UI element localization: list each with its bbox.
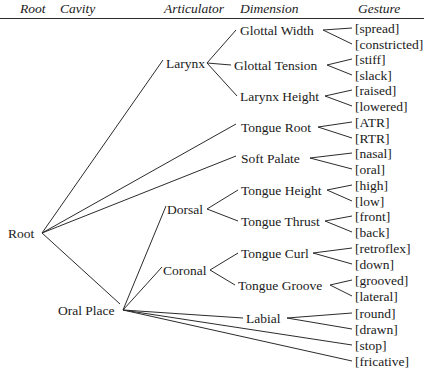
fork-tongue_thrust-to-back [325, 221, 352, 232]
gesture-stiff: [stiff] [355, 52, 386, 67]
dimension-tongue-height: Tongue Height [241, 183, 321, 198]
fork-tongue_height-to-low [327, 190, 352, 201]
edge-root-to-tongue_root [42, 124, 236, 233]
gesture-slack: [slack] [355, 68, 392, 83]
edge-coronal-to-tongue_curl [210, 253, 238, 270]
fork-glottal_width-to-constricted [323, 30, 352, 44]
edge-oral_place-to-coronal [123, 267, 162, 310]
fork-glottal_tension-to-stiff [327, 59, 352, 65]
edge-root-to-larynx [42, 60, 163, 233]
fork-tongue_groove-to-grooved [330, 280, 352, 285]
gesture-grooved: [grooved] [355, 273, 408, 288]
fork-soft_palate-to-oral [310, 158, 352, 169]
gesture-fricative: [fricative] [355, 354, 409, 369]
dimension-tongue-thrust: Tongue Thrust [241, 214, 320, 229]
gesture-constricted: [constricted] [355, 37, 423, 52]
fork-tongue_root-to-RTR [318, 127, 352, 138]
fork-tongue_thrust-to-front [325, 216, 352, 221]
fork-tongue_root-to-ATR [318, 122, 352, 127]
feature-geometry-diagram: RootCavityArticulatorDimensionGesture Ro… [0, 0, 424, 372]
node-root: Root [8, 226, 34, 241]
edge-root-to-oral_place [42, 233, 120, 304]
fork-soft_palate-to-nasal [310, 153, 352, 158]
gesture-retroflex: [retroflex] [355, 241, 410, 256]
gesture-ATR: [ATR] [355, 115, 390, 130]
dimension-tongue-groove: Tongue Groove [238, 278, 322, 293]
gesture-back: [back] [355, 225, 389, 240]
edge-oral_place-to-dorsal [123, 206, 166, 310]
dimension-glottal-tension: Glottal Tension [234, 58, 317, 73]
gesture-front: [front] [355, 209, 390, 224]
dimension-tongue-curl: Tongue Curl [241, 246, 309, 261]
fork-glottal_width-to-spread [323, 28, 352, 30]
gesture-drawn: [drawn] [355, 322, 398, 337]
fork-tongue_curl-to-down [313, 253, 352, 264]
dimension-glottal-width: Glottal Width [240, 23, 314, 38]
gesture-nasal: [nasal] [355, 146, 392, 161]
fork-larynx_height-to-raised [325, 90, 352, 96]
gesture-stop: [stop] [355, 338, 387, 353]
fork-tongue_curl-to-retroflex [313, 248, 352, 253]
edge-larynx-to-larynx_height [207, 63, 237, 96]
gesture-down: [down] [355, 257, 394, 272]
edge-dorsal-to-tongue_height [207, 190, 238, 209]
gesture-low: [low] [355, 194, 384, 209]
fork-tongue_groove-to-lateral [330, 285, 352, 296]
dimension-larynx-height: Larynx Height [240, 89, 319, 104]
dimension-labial: Labial [246, 311, 280, 326]
edge-larynx-to-glottal_width [207, 30, 236, 63]
node-oral-place: Oral Place [58, 303, 115, 318]
fork-larynx_height-to-lowered [325, 96, 352, 106]
node-larynx: Larynx [166, 56, 205, 71]
edge-dorsal-to-tongue_thrust [207, 209, 238, 221]
fork-labial-to-round [287, 313, 352, 318]
gesture-round: [round] [355, 306, 396, 321]
fork-tongue_height-to-high [327, 185, 352, 190]
dimension-soft-palate: Soft Palate [241, 151, 300, 166]
edge-coronal-to-tongue_groove [210, 270, 235, 285]
gesture-spread: [spread] [355, 21, 399, 36]
gesture-lowered: [lowered] [355, 99, 407, 114]
node-dorsal: Dorsal [167, 202, 203, 217]
gesture-oral: [oral] [355, 162, 385, 177]
gesture-RTR: [RTR] [355, 131, 389, 146]
dimension-tongue-root: Tongue Root [241, 120, 311, 135]
gesture-lateral: [lateral] [355, 289, 398, 304]
edge-larynx-to-glottal_tension [207, 63, 231, 65]
node-coronal: Coronal [163, 263, 207, 278]
gesture-raised: [raised] [355, 83, 396, 98]
fork-labial-to-drawn [287, 318, 352, 329]
fork-glottal_tension-to-slack [327, 65, 352, 75]
gesture-high: [high] [355, 178, 388, 193]
edge-root-to-soft_palate [42, 156, 236, 233]
